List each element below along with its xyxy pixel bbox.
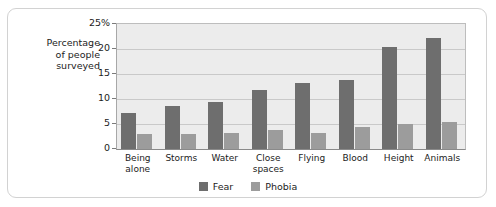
legend-swatch-phobia-icon: [251, 182, 260, 191]
bar-group: [339, 24, 370, 149]
bar-phobia-flying: [311, 133, 326, 149]
y-axis-tick-label: 10: [80, 93, 110, 103]
chart-figure: Percentage of people surveyed 25%2015105…: [7, 8, 487, 198]
bar-phobia-water: [224, 133, 239, 149]
bar-fear-storms: [165, 106, 180, 149]
plot-area: [116, 23, 466, 150]
bar-fear-blood: [339, 80, 354, 149]
bar-fear-being-alone: [121, 113, 136, 149]
bar-phobia-close-spaces: [268, 130, 283, 149]
bar-fear-animals: [426, 38, 441, 149]
bar-group: [426, 24, 457, 149]
bar-phobia-being-alone: [137, 134, 152, 149]
bar-fear-close-spaces: [252, 90, 267, 149]
legend-label: Fear: [213, 181, 234, 192]
y-axis-tick-label: 25%: [80, 18, 110, 28]
y-axis-tick-label: 5: [80, 118, 110, 128]
bar-group: [121, 24, 152, 149]
bar-fear-flying: [295, 83, 310, 149]
legend-label: Phobia: [265, 181, 297, 192]
bar-phobia-height: [398, 124, 413, 149]
bar-fear-water: [208, 102, 223, 149]
bar-fear-height: [382, 47, 397, 149]
bar-phobia-storms: [181, 134, 196, 149]
bar-phobia-animals: [442, 122, 457, 149]
legend-item-fear: Fear: [199, 181, 234, 192]
y-axis-tick-label: 0: [80, 143, 110, 153]
bar-group: [165, 24, 196, 149]
bar-group: [252, 24, 283, 149]
bar-group: [295, 24, 326, 149]
y-axis-tick-label: 20: [80, 43, 110, 53]
bar-group: [208, 24, 239, 149]
y-axis-tick-label: 15: [80, 68, 110, 78]
bar-group: [382, 24, 413, 149]
bar-phobia-blood: [355, 127, 370, 149]
legend-item-phobia: Phobia: [251, 181, 297, 192]
chart-legend: FearPhobia: [8, 181, 487, 192]
x-axis-label-animals: Animals: [417, 153, 469, 164]
legend-swatch-fear-icon: [199, 182, 208, 191]
